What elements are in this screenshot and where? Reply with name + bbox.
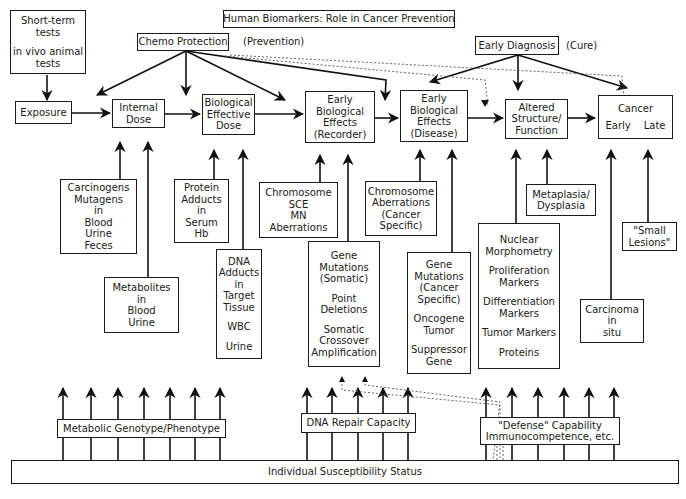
line: Chromosome <box>265 187 331 199</box>
line: Effective <box>207 109 251 121</box>
line: tests <box>36 27 60 39</box>
stage-early-effects-disease: Early Biological Effects (Disease) <box>400 90 468 142</box>
stage-biological-effective-dose: Biological Effective Dose <box>202 94 255 135</box>
line: Deletions <box>320 304 367 316</box>
metabolic-label: Metabolic Genotype/Phenotype <box>63 423 220 435</box>
early-diagnosis-label: Early Diagnosis <box>478 40 555 52</box>
cancer-late: Late <box>644 120 666 132</box>
short-term-tests-box: Short-term tests in vivo animal tests <box>10 10 86 74</box>
stage-exposure: Exposure <box>15 101 72 124</box>
line: Metabolites <box>112 282 170 294</box>
dna-repair-box: DNA Repair Capacity <box>301 413 416 433</box>
line: Target <box>224 290 255 302</box>
chemo-protection-label: Chemo Protection <box>138 36 227 48</box>
early-diagnosis-box: Early Diagnosis <box>475 36 559 55</box>
line: Function <box>515 125 558 137</box>
line: Dose <box>216 120 241 132</box>
line: (Cancer <box>419 282 458 294</box>
line: Tumor Markers <box>482 327 556 339</box>
line: Tumor <box>424 325 455 337</box>
marker-chromosome-aberrations-cancer: Chromosome Aberrations (Cancer Specific) <box>365 181 437 236</box>
line: Biological <box>204 97 252 109</box>
stage-cancer: Cancer Early Late <box>598 95 673 139</box>
line: Biological <box>410 105 458 117</box>
line: Suppressor <box>411 344 467 356</box>
line: Gene <box>426 356 452 368</box>
line: Differentiation <box>483 296 555 308</box>
line: Adducts <box>219 267 259 279</box>
marker-protein-adducts: Protein Adducts in Serum Hb <box>174 179 229 243</box>
marker-chromosome-sce: Chromosome SCE MN Aberrations <box>259 182 338 238</box>
line: Biological <box>316 106 364 118</box>
defense-capability-box: "Defense" Capability Immunocompetence, e… <box>480 417 620 445</box>
line: Specific) <box>418 294 461 306</box>
defense-line-1: "Defense" Capability <box>498 420 602 432</box>
marker-dna-adducts: DNA Adducts in Target Tissue WBC Urine <box>216 249 262 359</box>
cure-note: (Cure) <box>566 40 597 51</box>
line: Chromosome <box>368 186 434 198</box>
line: Morphometry <box>485 246 553 258</box>
line: "Small <box>633 225 665 237</box>
marker-gene-mutations-somatic: Gene Mutations (Somatic) Point Deletions… <box>308 241 380 367</box>
line: Effects <box>417 116 451 128</box>
individual-susceptibility-bar: Individual Susceptibility Status <box>11 460 679 484</box>
line: Tissue <box>223 302 255 314</box>
line: Effects <box>323 117 357 129</box>
line: DNA <box>228 256 250 268</box>
stage-altered-structure: Altered Structure/ Function <box>505 99 568 139</box>
line: Aberrations <box>372 197 430 209</box>
line: Specific) <box>380 220 423 232</box>
marker-nuclear-morphometry: Nuclear Morphometry Proliferation Marker… <box>478 223 560 369</box>
line: Urine <box>85 228 112 240</box>
diagram-title: Human Biomarkers: Role in Cancer Prevent… <box>223 10 455 28</box>
line: Proliferation <box>489 265 550 277</box>
marker-metaplasia: Metaplasia/ Dysplasia <box>526 184 596 216</box>
line: situ <box>603 327 621 339</box>
defense-line-2: Immunocompetence, etc. <box>486 431 614 443</box>
line: Markers <box>499 308 539 320</box>
line: Short-term <box>21 15 75 27</box>
title-text: Human Biomarkers: Role in Cancer Prevent… <box>223 13 454 25</box>
line: Adducts <box>181 194 221 206</box>
line: in vivo animal <box>13 46 83 58</box>
line: in <box>607 315 616 327</box>
line: Oncogene <box>414 313 465 325</box>
marker-metabolites: Metabolites in Blood Urine <box>104 277 179 333</box>
line: Feces <box>84 240 112 252</box>
line: Gene <box>331 250 357 262</box>
cancer-early: Early <box>605 120 630 132</box>
marker-carcinoma-in-situ: Carcinoma in situ <box>580 299 644 343</box>
line: in <box>197 205 206 217</box>
line: in <box>234 279 243 291</box>
line: Carcinoma <box>585 304 639 316</box>
line: Structure/ <box>512 113 562 125</box>
line: Aberrations <box>270 222 328 234</box>
line: (Recorder) <box>314 129 367 141</box>
line: Mutations <box>414 271 463 283</box>
line: Dose <box>126 114 151 126</box>
marker-gene-mutations-cancer: Gene Mutations (Cancer Specific) Oncogen… <box>407 252 471 374</box>
line: Somatic <box>324 324 365 336</box>
stage-early-effects-recorder: Early Biological Effects (Recorder) <box>305 91 375 143</box>
line: Blood <box>127 305 155 317</box>
chemo-protection-box: Chemo Protection <box>137 33 229 51</box>
line: Exposure <box>20 107 66 119</box>
line: Protein <box>184 182 219 194</box>
line: in <box>137 294 146 306</box>
susceptibility-label: Individual Susceptibility Status <box>268 466 422 478</box>
prevention-note: (Prevention) <box>243 36 304 47</box>
line: Mutagens <box>74 194 123 206</box>
line: Crossover <box>319 335 369 347</box>
line: Altered <box>518 102 554 114</box>
stage-internal-dose: Internal Dose <box>112 99 165 128</box>
line: (Cancer <box>381 209 420 221</box>
line: (Somatic) <box>320 273 368 285</box>
line: Nuclear <box>500 234 539 246</box>
line: Internal <box>119 102 158 114</box>
marker-small-lesions: "Small Lesions" <box>622 222 677 251</box>
line: in <box>94 205 103 217</box>
marker-carcinogens: Carcinogens Mutagens in Blood Urine Fece… <box>60 179 137 254</box>
line: Early <box>327 94 352 106</box>
line: Metaplasia/ <box>532 189 590 201</box>
line: Markers <box>499 277 539 289</box>
